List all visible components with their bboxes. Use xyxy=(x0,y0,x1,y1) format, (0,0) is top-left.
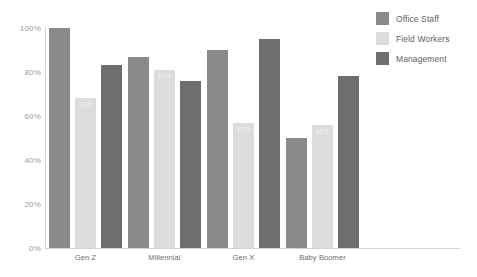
bar[interactable]: 57% xyxy=(233,123,254,248)
y-axis-tick-label: 80% xyxy=(24,68,41,77)
x-axis-category-label: Millennial xyxy=(125,253,204,262)
y-axis-tick-label: 0% xyxy=(29,244,41,253)
plot-area: 68%81%57%56% xyxy=(46,28,362,248)
bar-value-label: 68% xyxy=(75,101,96,108)
bar-group: 81% xyxy=(125,28,204,248)
bar-chart: 0%20%40%60%80%100% 68%81%57%56% Office S… xyxy=(0,0,477,277)
bar-group: 57% xyxy=(204,28,283,248)
chart-legend: Office StaffField WorkersManagement xyxy=(376,12,450,65)
legend-swatch-icon xyxy=(376,12,389,25)
legend-item-label: Office Staff xyxy=(396,14,439,24)
legend-swatch-icon xyxy=(376,52,389,65)
x-axis-category-label: Gen X xyxy=(204,253,283,262)
y-axis-tick-label: 40% xyxy=(24,156,41,165)
y-axis: 0%20%40%60%80%100% xyxy=(0,0,41,277)
legend-item[interactable]: Office Staff xyxy=(376,12,450,25)
bar[interactable]: 56% xyxy=(312,125,333,248)
bar[interactable] xyxy=(338,76,359,248)
bar[interactable] xyxy=(259,39,280,248)
bar-value-label: 81% xyxy=(154,73,175,80)
legend-swatch-icon xyxy=(376,32,389,45)
bar[interactable] xyxy=(101,65,122,248)
bar-group: 56% xyxy=(283,28,362,248)
bar-value-label: 56% xyxy=(312,128,333,135)
bar[interactable] xyxy=(207,50,228,248)
y-axis-tick-label: 60% xyxy=(24,112,41,121)
bar[interactable] xyxy=(286,138,307,248)
x-axis-category-label: Gen Z xyxy=(46,253,125,262)
legend-item[interactable]: Management xyxy=(376,52,450,65)
legend-item-label: Field Workers xyxy=(396,34,450,44)
legend-item-label: Management xyxy=(396,54,447,64)
bar[interactable]: 68% xyxy=(75,98,96,248)
bar-group: 68% xyxy=(46,28,125,248)
bar[interactable] xyxy=(128,57,149,248)
bar[interactable]: 81% xyxy=(154,70,175,248)
bar[interactable] xyxy=(180,81,201,248)
x-axis-line xyxy=(45,248,460,249)
bar-value-label: 57% xyxy=(233,126,254,133)
bar[interactable] xyxy=(49,28,70,248)
y-axis-tick-label: 20% xyxy=(24,200,41,209)
x-axis-category-label: Baby Boomer xyxy=(283,253,362,262)
y-axis-tick-label: 100% xyxy=(20,24,41,33)
legend-item[interactable]: Field Workers xyxy=(376,32,450,45)
